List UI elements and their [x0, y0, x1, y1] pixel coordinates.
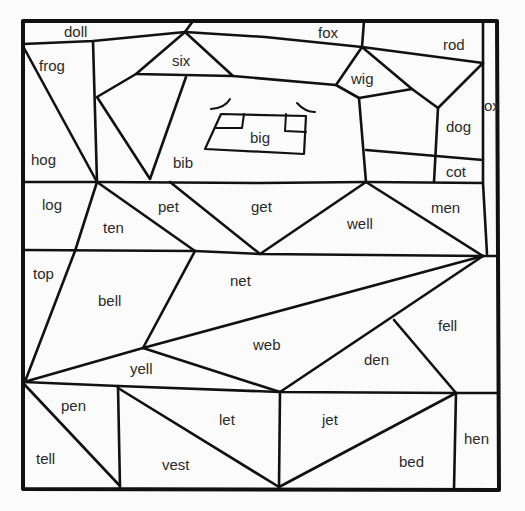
region-label: yell — [130, 361, 153, 376]
region-label: well — [347, 216, 373, 231]
region-label: bed — [399, 454, 424, 469]
region-label: jet — [322, 412, 338, 427]
region-label: bell — [98, 293, 121, 308]
region-label: frog — [39, 58, 65, 73]
region-label: hen — [464, 431, 489, 446]
region-label: cot — [446, 164, 466, 179]
region-label: ox — [484, 98, 500, 113]
region-label: fox — [318, 25, 338, 40]
puzzle-line-drawing — [0, 0, 525, 511]
region-label: hog — [31, 152, 56, 167]
region-label: fell — [438, 318, 457, 333]
ox-divider — [483, 22, 487, 254]
region-label: wig — [351, 71, 374, 86]
region-label: men — [431, 200, 460, 215]
right-eyebrow — [297, 103, 315, 112]
coloring-worksheet: doll fox rod frog six wig ox big dog hog… — [0, 0, 525, 511]
left-eyebrow — [211, 99, 230, 109]
region-label: top — [33, 266, 54, 281]
region-label: dog — [446, 119, 471, 134]
region-label: pet — [158, 199, 179, 214]
region-label: pen — [61, 398, 86, 413]
region-label: vest — [162, 457, 190, 472]
region-label: log — [42, 197, 62, 212]
region-label: get — [251, 199, 272, 214]
region-label: net — [230, 273, 251, 288]
region-label: let — [219, 412, 235, 427]
region-label: tell — [36, 451, 55, 466]
region-label: den — [364, 352, 389, 367]
region-label: rod — [443, 37, 465, 52]
region-label: big — [250, 130, 270, 145]
region-label: ten — [103, 220, 124, 235]
region-label: six — [172, 53, 190, 68]
region-label: web — [253, 337, 281, 352]
region-label: doll — [64, 24, 87, 39]
region-label: bib — [173, 155, 193, 170]
